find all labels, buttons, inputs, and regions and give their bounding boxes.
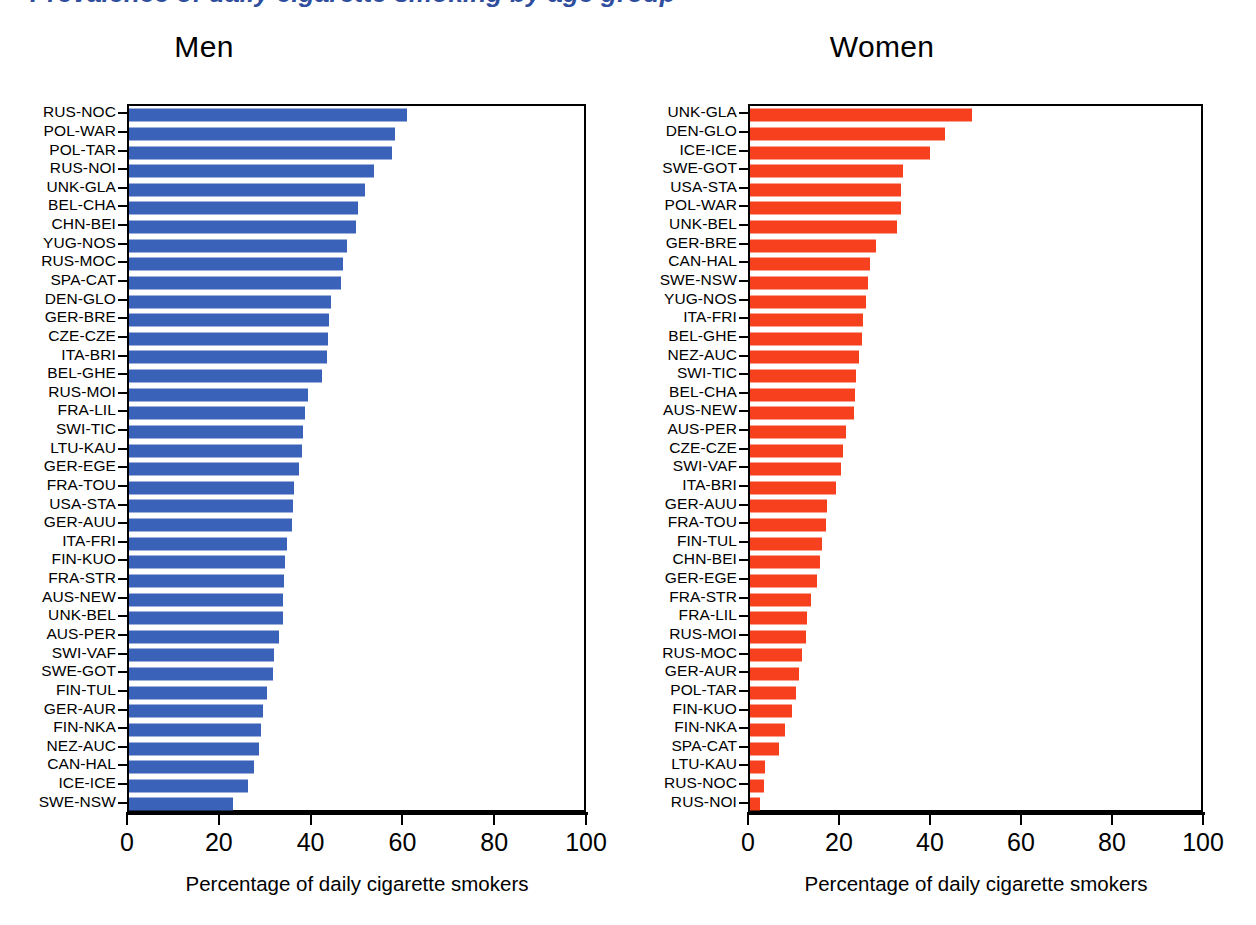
chart-panel-women: Women UNK-GLADEN-GLOICE-ICESWE-GOTUSA-ST… [628,0,1256,925]
x-tick [310,812,312,825]
bar-row [750,534,1201,553]
y-axis-label: BEL-GHE [668,327,737,345]
y-axis-label: FIN-KUO [673,700,737,718]
y-tick [739,485,748,487]
x-tick-label: 20 [825,828,853,857]
y-tick [118,131,127,133]
bar [129,407,305,420]
y-tick [739,634,748,636]
bar [129,593,283,606]
bar [750,314,863,327]
bar-row [750,739,1201,758]
y-tick [739,410,748,412]
y-tick [739,653,748,655]
bar-row [129,721,584,740]
y-axis-label: FRA-TOU [668,513,737,531]
bar-row [129,497,584,516]
bar [750,425,846,438]
y-axis-label: AUS-NEW [42,588,116,606]
x-tick [929,812,931,825]
y-axis-label: LTU-KAU [671,755,737,773]
y-axis-label: UNK-GLA [667,103,737,121]
bar-row [129,683,584,702]
bar [750,444,843,457]
bar-row [750,683,1201,702]
bar [750,537,822,550]
y-axis-label: POL-WAR [44,122,116,140]
bar-row [129,348,584,367]
y-tick [118,597,127,599]
y-tick [739,802,748,804]
bar-row [750,404,1201,423]
bar [750,761,765,774]
y-tick [739,448,748,450]
y-axis-label: CAN-HAL [668,252,737,270]
bar-row [750,236,1201,255]
bar [750,463,841,476]
bar [750,276,868,289]
y-axis-label: SWE-GOT [41,662,116,680]
bar-row [750,665,1201,684]
bar-row [129,553,584,572]
bar-row [750,125,1201,144]
y-tick [118,522,127,524]
y-tick [739,243,748,245]
bar [750,183,901,196]
y-axis-label: RUS-MOC [41,252,116,270]
bar [129,165,374,178]
bar-row [129,125,584,144]
y-tick [118,355,127,357]
y-tick [118,429,127,431]
y-tick [118,299,127,301]
y-tick [118,541,127,543]
y-tick [739,671,748,673]
y-axis-label: SWE-NSW [39,793,116,811]
y-axis-label: ICE-ICE [679,141,737,159]
bar-row [129,646,584,665]
bar [129,258,343,271]
y-axis-label: USA-STA [49,495,116,513]
y-tick [739,783,748,785]
bar-row [750,199,1201,218]
y-axis-label: AUS-NEW [663,401,737,419]
bar [129,723,261,736]
bar-row [750,460,1201,479]
x-tick-label: 80 [1098,828,1126,857]
bar-row [129,441,584,460]
bar-row [129,590,584,609]
bar-row [750,479,1201,498]
y-tick [739,746,748,748]
bar [750,649,802,662]
y-tick [118,783,127,785]
bar [129,630,279,643]
y-tick [739,541,748,543]
x-tick-label: 40 [916,828,944,857]
y-axis-label: AUS-PER [46,625,116,643]
y-tick [118,653,127,655]
bar-row [129,479,584,498]
bar-row [750,292,1201,311]
bar [129,705,263,718]
bar [750,221,897,234]
y-axis-label: NEZ-AUC [46,737,116,755]
bar-row [750,162,1201,181]
bar-rows-women [750,106,1201,810]
y-axis-label: ITA-FRI [62,532,116,550]
bar-row [750,330,1201,349]
x-tick [747,812,749,825]
bar [129,351,327,364]
bar-row [129,739,584,758]
bar [129,779,248,792]
bar [129,519,292,532]
y-axis-label: ITA-BRI [61,346,116,364]
bar [129,649,274,662]
bar-row [129,795,584,814]
y-tick [118,168,127,170]
y-axis-label: GER-BRE [666,234,737,252]
bar-row [750,646,1201,665]
chart-panel-men: Men RUS-NOCPOL-WARPOL-TARRUS-NOIUNK-GLAB… [0,0,628,925]
y-tick [739,727,748,729]
y-tick [118,634,127,636]
bar-row [129,423,584,442]
bar-row [750,590,1201,609]
